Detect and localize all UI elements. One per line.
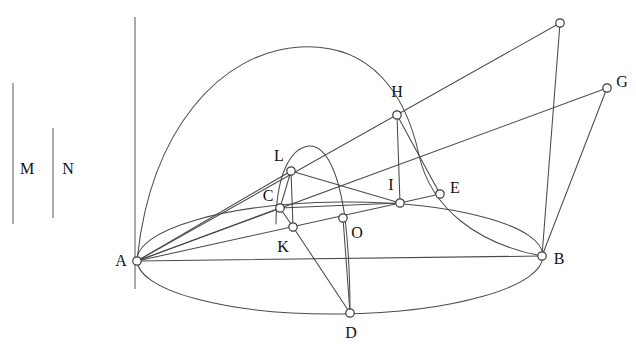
segment-k-d	[293, 227, 350, 313]
label-n: N	[62, 161, 74, 177]
segment-h-e	[397, 115, 440, 194]
segment-f-b	[542, 23, 560, 256]
geometry-canvas	[0, 0, 636, 355]
label-c: C	[263, 188, 274, 204]
label-g: G	[616, 74, 628, 90]
segment-h-i	[397, 115, 400, 203]
segment-a-b	[137, 256, 542, 261]
segment-a-f	[137, 23, 560, 261]
vertex-l[interactable]	[287, 167, 295, 175]
curve-great-arc	[137, 47, 542, 261]
vertex-a[interactable]	[133, 257, 141, 265]
vertex-i[interactable]	[396, 199, 404, 207]
vertex-e[interactable]	[436, 190, 444, 198]
label-i: I	[388, 177, 393, 193]
label-l: L	[274, 148, 284, 164]
label-o: O	[351, 225, 363, 241]
segment-l-k	[291, 171, 293, 227]
vertex-c[interactable]	[276, 204, 284, 212]
vertex-h[interactable]	[393, 111, 401, 119]
segment-a-l	[137, 171, 291, 261]
vertex-g[interactable]	[603, 84, 611, 92]
vertex-o[interactable]	[339, 214, 347, 222]
vertex-b[interactable]	[538, 252, 546, 260]
label-e: E	[450, 180, 460, 196]
label-b: B	[554, 251, 565, 267]
label-d: D	[345, 325, 357, 341]
label-h: H	[391, 84, 403, 100]
label-m: M	[20, 161, 34, 177]
vertex-f[interactable]	[556, 19, 564, 27]
label-a: A	[115, 253, 127, 269]
segment-e-i	[400, 194, 440, 203]
segment-g-b	[542, 88, 607, 256]
vertex-k[interactable]	[289, 223, 297, 231]
label-k: K	[277, 239, 289, 255]
geometry-figure: M N A B C D E G H I K L O	[0, 0, 636, 355]
vertex-d[interactable]	[346, 309, 354, 317]
